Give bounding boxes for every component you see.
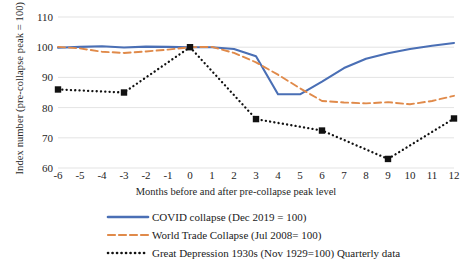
y-axis-tick-label: 110 (27, 11, 53, 23)
y-axis-tick-labels: 60708090100110 (20, 0, 53, 268)
series-layer (55, 43, 457, 162)
dotted-line-key (108, 247, 148, 259)
y-axis-tick-label: 80 (27, 102, 53, 114)
x-axis-tick-label: 6 (319, 169, 325, 181)
x-axis-title: Months before and after pre-collapse pea… (0, 186, 472, 197)
x-axis-tick-label: 12 (449, 169, 460, 181)
legend-label: COVID collapse (Dec 2019 = 100) (152, 211, 306, 223)
x-axis-tick-label: -5 (75, 169, 84, 181)
data-point-marker (385, 156, 391, 162)
y-axis-tick-label: 90 (27, 71, 53, 83)
data-point-marker (121, 89, 127, 95)
legend-label: World Trade Collapse (Jul 2008= 100) (152, 229, 321, 241)
x-axis-tick-label: 8 (363, 169, 369, 181)
data-point-marker (55, 86, 61, 92)
series-line (58, 47, 454, 159)
chart-legend: COVID collapse (Dec 2019 = 100)World Tra… (108, 208, 468, 262)
y-axis-tick-label: 100 (27, 41, 53, 53)
x-axis-tick-label: 11 (427, 169, 438, 181)
x-axis-tick-label: -2 (141, 169, 150, 181)
x-axis-tick-label: 0 (187, 169, 193, 181)
x-axis-tick-label: -3 (119, 169, 128, 181)
data-point-marker (187, 44, 193, 50)
x-axis-tick-label: 2 (231, 169, 237, 181)
x-axis-tick-label: 4 (275, 169, 281, 181)
x-axis-tick-label: 3 (253, 169, 259, 181)
x-axis-tick-label: 10 (405, 169, 416, 181)
plot-svg (58, 17, 454, 168)
line-chart: Index number (pre-collapse peak = 100) 6… (0, 0, 472, 268)
y-axis-tick-label: 60 (27, 162, 53, 174)
dashed-line-key (108, 229, 148, 241)
x-axis-tick-label: -6 (53, 169, 62, 181)
data-point-marker (451, 115, 457, 121)
x-axis-tick-label: 7 (341, 169, 347, 181)
x-axis-tick-labels: -6-5-4-3-2-10123456789101112 (58, 169, 454, 185)
x-axis-tick-label: 9 (385, 169, 391, 181)
data-point-marker (319, 127, 325, 133)
plot-area (58, 17, 454, 168)
x-axis-tick-label: -1 (163, 169, 172, 181)
legend-item[interactable]: COVID collapse (Dec 2019 = 100) (108, 208, 468, 226)
legend-label: Great Depression 1930s (Nov 1929=100) Qu… (152, 247, 400, 259)
y-axis-tick-label: 70 (27, 132, 53, 144)
series-line (58, 43, 454, 94)
legend-item[interactable]: World Trade Collapse (Jul 2008= 100) (108, 226, 468, 244)
legend-item[interactable]: Great Depression 1930s (Nov 1929=100) Qu… (108, 244, 468, 262)
solid-line-key (108, 211, 148, 223)
x-axis-tick-label: 1 (209, 169, 215, 181)
data-point-marker (253, 116, 259, 122)
x-axis-tick-label: -4 (97, 169, 106, 181)
x-axis-tick-label: 5 (297, 169, 303, 181)
